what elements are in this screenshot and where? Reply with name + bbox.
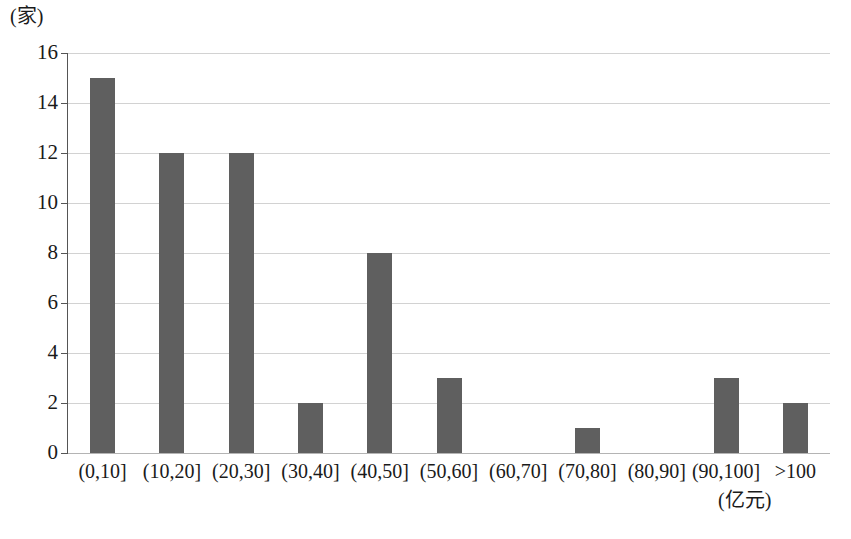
gridline — [68, 453, 830, 454]
bar — [159, 153, 184, 453]
y-axis-tick-label: 6 — [18, 292, 58, 313]
gridline — [68, 53, 830, 54]
y-axis-tick-label-wrap: 14 — [10, 92, 58, 113]
y-axis-tick-label-wrap: 8 — [10, 242, 58, 263]
y-axis-tick-label: 14 — [18, 92, 58, 113]
y-axis-tick-label: 4 — [18, 342, 58, 363]
y-axis-tick — [61, 103, 68, 104]
y-axis-unit-label: (家) — [10, 4, 43, 28]
bar — [437, 378, 462, 453]
y-axis-tick-label-wrap: 4 — [10, 342, 58, 363]
y-axis-tick-label: 2 — [18, 392, 58, 413]
bar — [298, 403, 323, 453]
x-axis-unit-label: (亿元) — [718, 487, 771, 513]
y-axis-tick-label: 8 — [18, 242, 58, 263]
y-axis-tick — [61, 53, 68, 54]
y-axis-tick — [61, 203, 68, 204]
bar — [783, 403, 808, 453]
y-axis-tick — [61, 303, 68, 304]
plot-area — [68, 53, 830, 453]
bar-chart: (家) 0246810121416 (0,10](10,20](20,30](3… — [0, 0, 851, 539]
y-axis-tick-label-wrap: 16 — [10, 42, 58, 63]
x-axis-tick-labels: (0,10](10,20](20,30](30,40](40,50](50,60… — [0, 458, 851, 488]
y-axis-tick-label: 10 — [18, 192, 58, 213]
x-axis-tick-label: >100 — [740, 458, 850, 484]
bar — [714, 378, 739, 453]
y-axis-tick-label: 16 — [18, 42, 58, 63]
y-axis-tick — [61, 403, 68, 404]
bar — [229, 153, 254, 453]
bar — [575, 428, 600, 453]
y-axis-tick-label-wrap: 2 — [10, 392, 58, 413]
y-axis-tick-label: 12 — [18, 142, 58, 163]
y-axis-tick — [61, 453, 68, 454]
y-axis-tick — [61, 353, 68, 354]
y-axis-tick-label-wrap: 12 — [10, 142, 58, 163]
gridline — [68, 103, 830, 104]
y-axis-tick-label-wrap: 10 — [10, 192, 58, 213]
y-axis-tick-label-wrap: 6 — [10, 292, 58, 313]
bar — [90, 78, 115, 453]
bar — [367, 253, 392, 453]
y-axis-tick — [61, 153, 68, 154]
y-axis-tick — [61, 253, 68, 254]
